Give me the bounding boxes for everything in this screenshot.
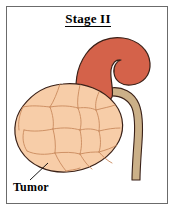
figure-title-text: Stage II <box>65 11 110 27</box>
tumor-label: Tumor <box>13 180 49 195</box>
figure-title: Stage II <box>0 11 176 27</box>
tumor-mass <box>15 84 123 172</box>
figure-container: Stage II Tumor <box>0 0 176 221</box>
